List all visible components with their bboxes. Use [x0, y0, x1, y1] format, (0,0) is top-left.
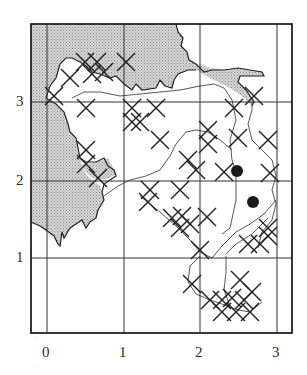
- sea-area: [31, 24, 264, 246]
- dot-marker: [247, 196, 259, 208]
- dot-markers: [231, 165, 259, 208]
- x-tick-2: 2: [195, 344, 203, 361]
- x-tick-1: 1: [119, 344, 127, 361]
- x-tick-0: 0: [42, 344, 50, 361]
- y-tick-1: 1: [16, 249, 24, 266]
- x-tick-3: 3: [272, 344, 280, 361]
- dot-marker: [231, 165, 243, 177]
- y-tick-2: 2: [16, 172, 24, 189]
- y-tick-3: 3: [16, 93, 24, 110]
- distribution-map: [0, 0, 307, 375]
